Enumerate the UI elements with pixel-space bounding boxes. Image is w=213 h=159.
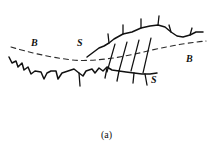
label-s-upper: S (77, 38, 83, 48)
figure-container: B S B S (a) (0, 0, 213, 159)
upper-scarp-trace (87, 16, 203, 57)
figure-caption: (a) (0, 130, 213, 140)
upper-scarp-hachures (108, 16, 192, 43)
label-b-left: B (31, 38, 38, 48)
label-s-lower: S (151, 75, 157, 85)
label-b-right: B (186, 54, 193, 64)
lower-scarp-trace (9, 57, 157, 86)
